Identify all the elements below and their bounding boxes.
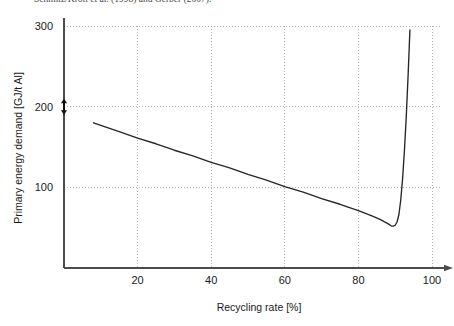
tick-labels-group: 20406080100100200300 <box>35 20 442 286</box>
x-tick-label-40: 40 <box>205 274 217 286</box>
data-curve-0 <box>93 30 409 226</box>
chart-figure: Schmitz/Kroll et al. (1998) and Gerber (… <box>0 0 454 326</box>
y-axis-double-arrow-marker-head-up <box>61 99 67 104</box>
x-tick-label-20: 20 <box>131 274 143 286</box>
y-axis-title: Primary energy demand [GJ/t Al] <box>12 72 24 224</box>
axes-group <box>64 18 453 271</box>
y-tick-label-300: 300 <box>35 20 53 32</box>
x-axis-title: Recycling rate [%] <box>217 301 302 313</box>
y-axis-double-arrow-marker <box>61 99 67 115</box>
annotations-group <box>61 99 67 115</box>
gridlines-group <box>64 26 442 268</box>
y-tick-label-200: 200 <box>35 101 53 113</box>
y-tick-label-100: 100 <box>35 181 53 193</box>
data-curve-group <box>93 30 409 226</box>
x-tick-label-80: 80 <box>352 274 364 286</box>
x-tick-label-100: 100 <box>423 274 441 286</box>
primary-energy-demand-vs-recycling-rate-chart: 20406080100100200300 Recycling rate [%] … <box>0 0 454 326</box>
y-axis-double-arrow-marker-head-down <box>61 110 67 115</box>
x-axis-arrowhead <box>444 265 453 271</box>
x-tick-label-60: 60 <box>279 274 291 286</box>
